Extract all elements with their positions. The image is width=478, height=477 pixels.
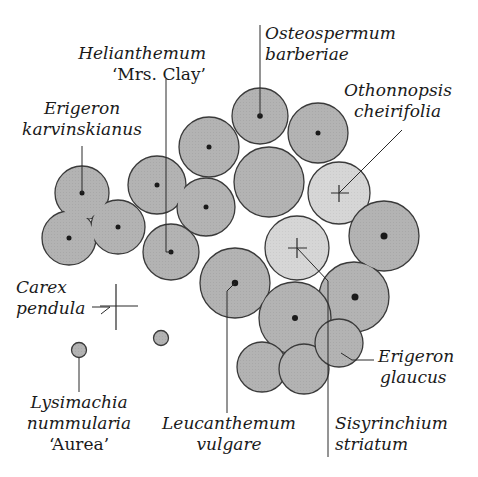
label-line: glaucus [378, 367, 454, 388]
label-line: barberiae [265, 44, 396, 65]
label-lysimachia: Lysimachia nummularia ‘Aurea’ [14, 392, 144, 455]
label-carex: Carex pendula [16, 277, 85, 319]
osteospermum-group [232, 88, 348, 163]
label-line: Carex [16, 277, 85, 298]
label-line: Osteospermum [265, 23, 396, 44]
label-sisyrinchium: Sisyrinchium striatum [335, 413, 448, 455]
label-line: nummularia [14, 413, 144, 434]
label-line: Erigeron [378, 346, 454, 367]
label-line: Leucanthemum [156, 413, 302, 434]
label-line: vulgare [156, 434, 302, 455]
label-line: cheirifolia [344, 101, 452, 122]
label-line: Sisyrinchium [335, 413, 448, 434]
lysimachia-plant [72, 343, 87, 358]
label-othonnopsis: Othonnopsis cheirifolia [344, 80, 452, 122]
label-line: Helianthemum [58, 43, 206, 64]
central-shrub [234, 147, 304, 217]
label-line: Erigeron [14, 98, 150, 119]
label-line: striatum [335, 434, 448, 455]
label-leucanthemum: Leucanthemum vulgare [156, 413, 302, 455]
label-erigeron-glaucus: Erigeron glaucus [378, 346, 454, 388]
small-plant [154, 331, 169, 346]
label-erigeron-karvinskianus: Erigeron karvinskianus [14, 98, 150, 140]
label-line: pendula [16, 298, 85, 319]
label-osteospermum: Osteospermum barberiae [265, 23, 396, 65]
label-line: ‘Aurea’ [14, 434, 144, 455]
label-line: Lysimachia [14, 392, 144, 413]
label-line: karvinskianus [14, 119, 150, 140]
label-helianthemum: Helianthemum ‘Mrs. Clay’ [58, 43, 206, 85]
label-line: Othonnopsis [344, 80, 452, 101]
label-line: ‘Mrs. Clay’ [58, 64, 206, 85]
